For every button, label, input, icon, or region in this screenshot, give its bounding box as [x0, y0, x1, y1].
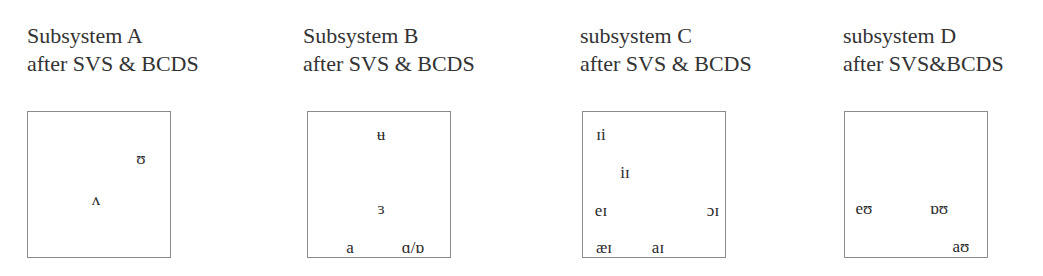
panel-title-line2: after SVS&BCDS	[843, 50, 1004, 78]
panel-title-line2: after SVS & BCDS	[303, 50, 475, 78]
panel-title-line1: Subsystem A	[27, 22, 199, 50]
panel-title-line1: subsystem D	[843, 22, 1004, 50]
panel-title-line2: after SVS & BCDS	[580, 50, 752, 78]
vowel-symbol: a	[346, 239, 354, 256]
panel-title-line1: Subsystem B	[303, 22, 475, 50]
vowel-symbol: ʌ	[92, 191, 101, 208]
panel-title: subsystem Dafter SVS&BCDS	[843, 22, 1004, 78]
vowel-symbol: ɑ/ɒ	[402, 239, 425, 256]
vowel-space-box: ʉɜaɑ/ɒ	[307, 111, 451, 258]
vowel-symbol: ʉ	[377, 126, 386, 143]
vowel-symbol: æɪ	[596, 239, 612, 256]
vowel-symbol: ɔɪ	[707, 202, 719, 219]
panel-title-line1: subsystem C	[580, 22, 752, 50]
vowel-symbol: eʊ	[856, 200, 873, 217]
vowel-symbol: aɪ	[652, 239, 664, 256]
vowel-space-box: eʊɒʊaʊ	[844, 111, 988, 258]
panel-title: Subsystem Aafter SVS & BCDS	[27, 22, 199, 78]
panel-title: subsystem Cafter SVS & BCDS	[580, 22, 752, 78]
vowel-symbol: aʊ	[953, 238, 970, 255]
vowel-symbol: ɜ	[377, 200, 384, 217]
vowel-space-box: ɪiiɪeɪɔɪæɪaɪ	[582, 111, 726, 258]
vowel-space-box: ʊʌ	[27, 111, 171, 258]
vowel-symbol: iɪ	[620, 164, 629, 181]
panel-title-line2: after SVS & BCDS	[27, 50, 199, 78]
panel-title: Subsystem Bafter SVS & BCDS	[303, 22, 475, 78]
vowel-symbol: ɪi	[596, 126, 605, 143]
vowel-symbol: ʊ	[136, 150, 145, 167]
vowel-symbol: ɒʊ	[930, 200, 948, 217]
vowel-symbol: eɪ	[595, 202, 607, 219]
